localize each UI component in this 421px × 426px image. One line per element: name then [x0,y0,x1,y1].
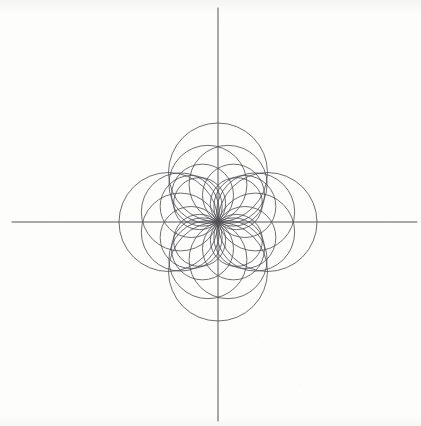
figure-page [0,0,421,426]
rosette-figure [0,0,421,426]
